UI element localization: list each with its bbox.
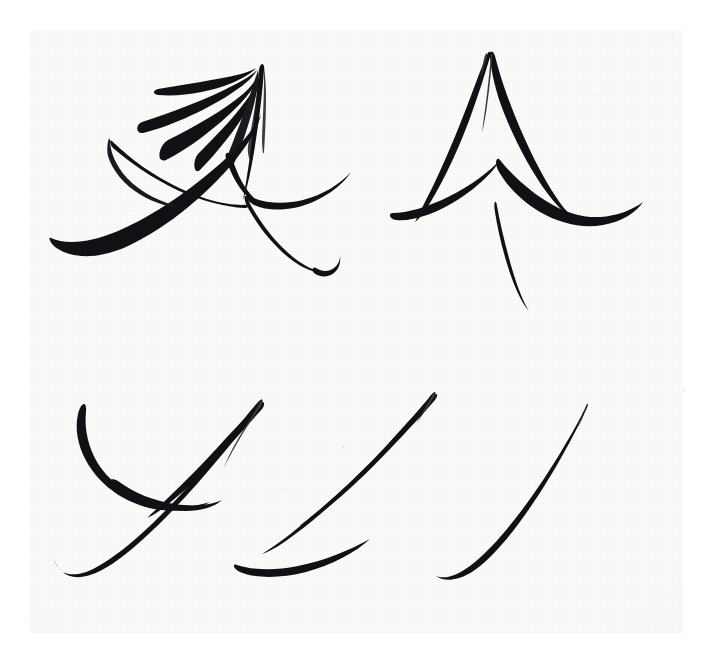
stroke-j-curve: [436, 403, 588, 579]
stroke-crescent-body: [109, 479, 222, 511]
ink-stroke-layer: [0, 0, 722, 658]
stroke-hook-tail-right: [313, 256, 341, 276]
paper-speck: [281, 490, 283, 492]
paper-speck: [133, 210, 135, 212]
stroke-j-curve-tail: [578, 404, 588, 429]
stroke-diagonal-lower: [63, 399, 263, 577]
cluster-top-right: [390, 52, 643, 311]
cluster-bottom-left: [54, 399, 264, 577]
paper-speck: [671, 36, 673, 38]
stroke-bottom-sweep: [234, 539, 370, 577]
paper-speck: [342, 446, 344, 448]
stroke-crescent-arc: [77, 404, 210, 511]
paper-speck: [683, 389, 685, 391]
stroke-peak-right-limb: [490, 52, 570, 214]
artwork-canvas: Ink Brush Stroke Study brush and ink on …: [0, 0, 722, 658]
cluster-top-left: [49, 64, 351, 276]
stroke-arc-right-upper: [246, 172, 351, 210]
stroke-pair-lower: [262, 392, 435, 554]
paper-speck: [597, 95, 599, 97]
stroke-crossing-knot: [226, 153, 262, 203]
cluster-bottom-right: [234, 392, 588, 580]
stroke-descending-tail: [494, 202, 529, 311]
stroke-horizontal-sweep-right: [496, 159, 643, 227]
ink-strokes-svg: [0, 0, 722, 658]
stroke-pair-tip-hair: [417, 393, 435, 423]
stroke-far-left-tail: [54, 556, 64, 573]
